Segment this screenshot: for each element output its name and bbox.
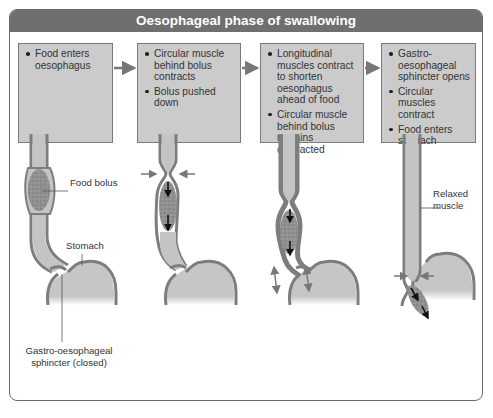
label-relaxed-muscle: Relaxed muscle [433, 188, 477, 211]
oesophagus-illustrations [10, 10, 483, 401]
panel-4-oesophagus [394, 134, 474, 318]
panel-2-oesophagus [141, 134, 236, 305]
panel-1-oesophagus [25, 134, 116, 342]
label-sphincter-closed: Gastro-oesophageal sphincter (closed) [24, 345, 114, 368]
panel-3-oesophagus [274, 134, 358, 305]
diagram-frame: Oesophageal phase of swallowing Food ent… [9, 9, 483, 401]
label-food-bolus: Food bolus [70, 177, 117, 189]
label-stomach: Stomach [66, 240, 104, 252]
